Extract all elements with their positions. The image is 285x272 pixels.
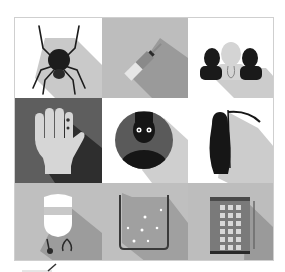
people-group-icon <box>188 18 274 98</box>
grim-reaper-icon <box>188 98 274 183</box>
tile-injured-hand <box>15 98 102 183</box>
building-icon <box>188 183 274 261</box>
beaker-icon <box>102 183 188 261</box>
tile-people-group <box>188 18 274 98</box>
decorative-mark <box>22 262 62 272</box>
tile-beaker <box>102 183 188 261</box>
hand-icon <box>15 98 102 183</box>
person-avatar-icon <box>102 98 188 183</box>
icon-grid <box>14 17 274 261</box>
doctor-icon <box>15 183 102 261</box>
tile-spider <box>15 18 102 98</box>
tile-grim-reaper <box>188 98 274 183</box>
syringe-icon <box>102 18 188 98</box>
tile-scared-person <box>102 98 188 183</box>
tile-syringe <box>102 18 188 98</box>
tile-doctor <box>15 183 102 261</box>
spider-icon <box>15 18 102 98</box>
tile-hospital-building <box>188 183 274 261</box>
